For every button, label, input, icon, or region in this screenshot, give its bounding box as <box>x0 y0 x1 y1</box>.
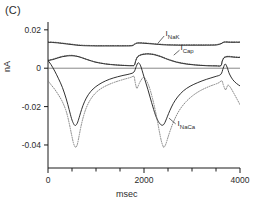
y-tick-label: -0.04 <box>0 140 41 150</box>
series-label-subscript: Cap <box>183 48 194 54</box>
annotation-leader-line <box>169 118 176 124</box>
series-label-icap: ICap <box>180 43 193 54</box>
annotation-leader-line <box>174 50 180 55</box>
series-path <box>48 54 240 66</box>
series-label-inak: INaK <box>166 29 180 40</box>
figure-panel-c: (C) nA msec 0.020-0.02-0.04020004000 INa… <box>0 0 253 204</box>
annotation-leader-line <box>158 36 164 43</box>
x-tick-label: 2000 <box>126 175 162 185</box>
series-path <box>48 61 240 126</box>
series-label-inaca: INaCa <box>178 119 196 130</box>
series-label-subscript: NaK <box>168 33 180 39</box>
y-tick-label: 0.02 <box>0 25 41 35</box>
x-tick-label: 4000 <box>222 175 253 185</box>
x-tick-label: 0 <box>30 175 66 185</box>
y-tick-label: -0.02 <box>0 102 41 112</box>
series-path <box>48 76 240 147</box>
series-group <box>48 42 240 148</box>
series-label-subscript: NaCa <box>180 123 195 129</box>
y-tick-label: 0 <box>0 63 41 73</box>
